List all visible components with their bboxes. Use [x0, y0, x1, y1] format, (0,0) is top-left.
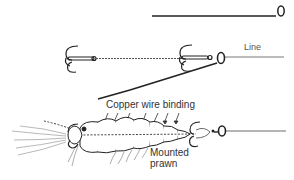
fishing-rig-diagram: Line Copper wire binding	[0, 0, 294, 180]
label-mounted-prawn-1: Mounted	[150, 147, 189, 158]
baiting-needle	[152, 6, 284, 16]
label-copper-wire: Copper wire binding	[106, 99, 195, 110]
mounted-prawn: Copper wire binding	[12, 90, 286, 169]
label-line: Line	[244, 42, 261, 52]
treble-hook-left	[66, 46, 97, 72]
treble-hook-right	[180, 45, 213, 71]
hook-trace: Line	[66, 42, 285, 90]
prawn-antennae	[12, 126, 66, 155]
label-mounted-prawn-2: prawn	[150, 158, 177, 169]
